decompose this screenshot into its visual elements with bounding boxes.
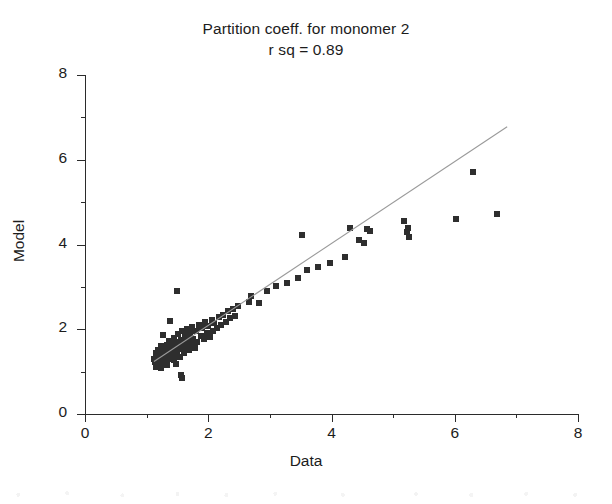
y-tick-minor [81, 372, 85, 373]
data-point [342, 254, 348, 260]
data-point [235, 303, 241, 309]
y-tick-major [77, 160, 85, 161]
data-point [315, 264, 321, 270]
y-tick-label: 6 [43, 149, 67, 167]
data-point [164, 362, 170, 368]
data-point [248, 293, 254, 299]
data-point [186, 347, 192, 353]
data-point [264, 288, 270, 294]
scatter-plot-figure: Partition coeff. for monomer 2 r sq = 0.… [0, 0, 612, 504]
data-point [273, 283, 279, 289]
data-point [174, 288, 180, 294]
data-point [201, 336, 207, 342]
data-point [401, 218, 407, 224]
data-point [160, 332, 166, 338]
y-tick-label: 2 [43, 318, 67, 336]
data-point [190, 338, 196, 344]
data-point [327, 260, 333, 266]
x-tick-major [578, 414, 579, 422]
data-point [361, 240, 367, 246]
y-tick-label: 4 [43, 234, 67, 252]
y-tick-major [77, 245, 85, 246]
chart-subtitle: r sq = 0.89 [0, 39, 612, 60]
y-tick-label: 0 [43, 403, 67, 421]
data-point [173, 361, 179, 367]
data-point [192, 345, 198, 351]
data-point [295, 275, 301, 281]
data-point [453, 216, 459, 222]
data-point [406, 234, 412, 240]
y-axis-line [85, 75, 86, 415]
x-tick-label: 0 [65, 424, 105, 442]
y-tick-minor [81, 117, 85, 118]
x-tick-label: 2 [188, 424, 228, 442]
data-point [246, 299, 252, 305]
scan-artifact-band [0, 487, 612, 501]
x-tick-minor [393, 414, 394, 418]
y-tick-major [77, 414, 85, 415]
data-point [167, 318, 173, 324]
data-point [284, 280, 290, 286]
data-point [347, 225, 353, 231]
data-point [367, 228, 373, 234]
y-tick-label: 8 [43, 64, 67, 82]
data-point [494, 211, 500, 217]
data-point [178, 372, 184, 378]
x-tick-label: 4 [312, 424, 352, 442]
y-tick-minor [81, 287, 85, 288]
data-point [256, 300, 262, 306]
y-tick-minor [81, 202, 85, 203]
data-point [207, 334, 213, 340]
y-axis-label: Model [10, 206, 28, 276]
y-tick-major [77, 329, 85, 330]
x-tick-minor [270, 414, 271, 418]
data-point [470, 169, 476, 175]
x-axis-label: Data [0, 452, 612, 470]
data-point [299, 232, 305, 238]
chart-title-block: Partition coeff. for monomer 2 r sq = 0.… [0, 18, 612, 60]
data-point [405, 225, 411, 231]
x-tick-major [85, 414, 86, 422]
x-tick-label: 6 [435, 424, 475, 442]
data-point [232, 313, 238, 319]
x-tick-label: 8 [558, 424, 598, 442]
x-tick-major [208, 414, 209, 422]
chart-title: Partition coeff. for monomer 2 [0, 18, 612, 39]
data-point [158, 365, 164, 371]
x-tick-major [332, 414, 333, 422]
x-tick-minor [147, 414, 148, 418]
y-tick-major [77, 75, 85, 76]
data-point [304, 267, 310, 273]
x-tick-major [455, 414, 456, 422]
x-tick-minor [516, 414, 517, 418]
